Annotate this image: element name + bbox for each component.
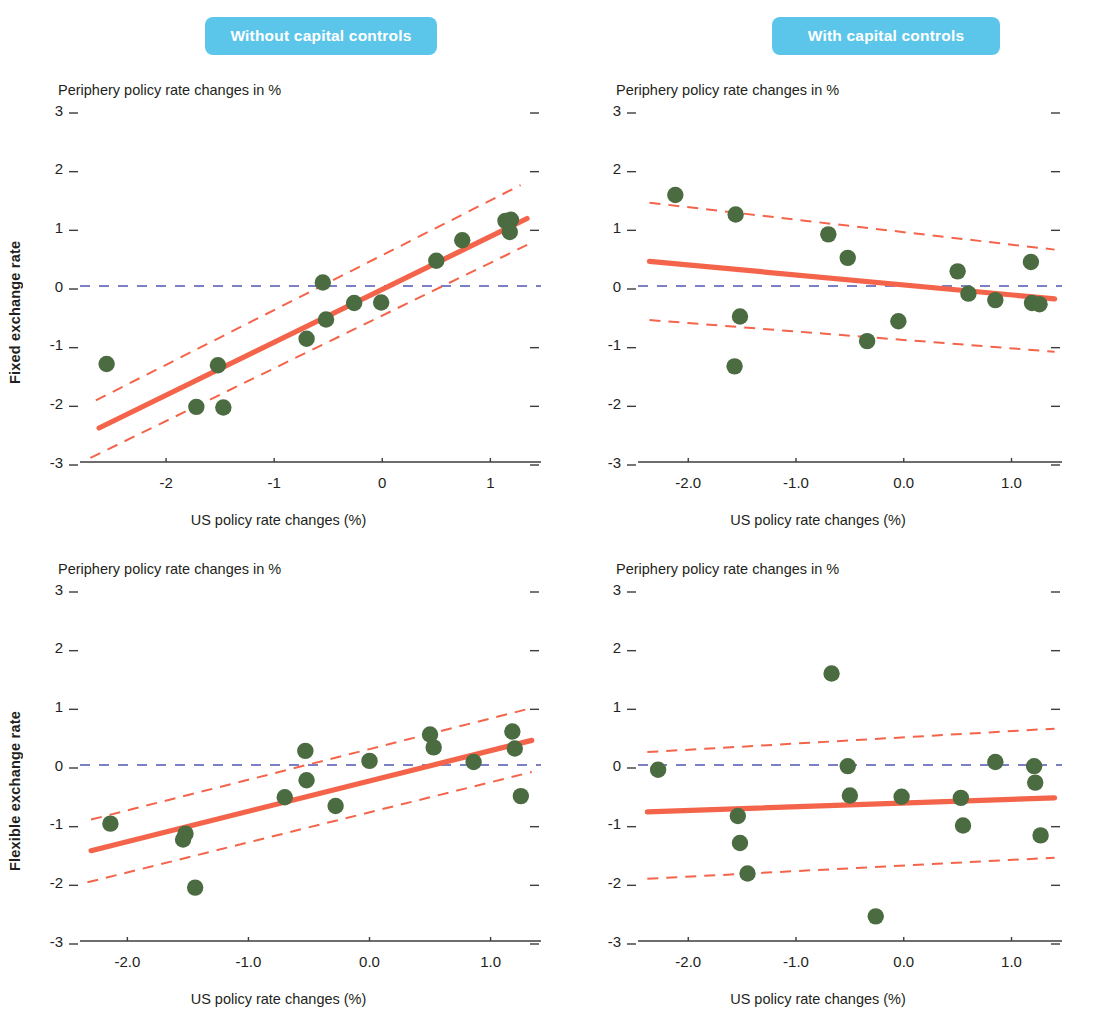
scatter-point [277, 789, 293, 805]
scatter-point [732, 308, 748, 324]
x-tick-label: 1.0 [480, 953, 501, 970]
badge-with-capital-controls: With capital controls [772, 17, 1000, 55]
scatter-plot-svg: -3-2-10123-2-101 [0, 72, 557, 502]
x-tick-label: -1.0 [783, 953, 809, 970]
scatter-point [955, 817, 971, 833]
x-axis-title: US policy rate changes (%) [0, 512, 557, 528]
scatter-point [298, 331, 314, 347]
scatter-point [1023, 254, 1039, 270]
scatter-plot-svg: -3-2-10123-2.0-1.00.01.0 [0, 551, 557, 981]
scatter-point [1026, 758, 1042, 774]
y-tick-label: 0 [613, 757, 621, 774]
scatter-point [732, 835, 748, 851]
y-tick-label: 3 [613, 102, 621, 119]
scatter-point [210, 357, 226, 373]
scatter-point [513, 788, 529, 804]
y-tick-label: 0 [613, 278, 621, 295]
x-tick-label: 0.0 [893, 953, 914, 970]
y-tick-label: 0 [55, 278, 63, 295]
confidence-interval-line [90, 245, 527, 458]
y-tick-label: -1 [50, 336, 63, 353]
confidence-interval-line [649, 203, 1054, 250]
x-tick-label: 1.0 [1001, 953, 1022, 970]
scatter-point [465, 754, 481, 770]
scatter-point [361, 753, 377, 769]
x-tick-label: -2.0 [114, 953, 140, 970]
scatter-point [1032, 827, 1048, 843]
scatter-point [327, 798, 343, 814]
x-tick-label: 0.0 [359, 953, 380, 970]
x-tick-label: 1 [486, 474, 494, 491]
scatter-point [1027, 774, 1043, 790]
scatter-point [859, 333, 875, 349]
y-tick-label: 3 [55, 102, 63, 119]
x-tick-label: 0 [378, 474, 386, 491]
scatter-point [960, 285, 976, 301]
scatter-point [102, 815, 118, 831]
x-tick-label: 1.0 [1001, 474, 1022, 491]
scatter-point [98, 356, 114, 372]
y-tick-label: -1 [608, 815, 621, 832]
y-tick-label: 2 [613, 160, 621, 177]
scatter-point [667, 187, 683, 203]
plot-area: -3-2-10123-2.0-1.00.01.0 [0, 551, 557, 1030]
scatter-point [949, 263, 965, 279]
scatter-point [727, 206, 743, 222]
regression-fit-line [99, 219, 527, 428]
x-axis-title: US policy rate changes (%) [0, 991, 557, 1007]
scatter-point [650, 761, 666, 777]
y-tick-label: 1 [55, 219, 63, 236]
y-tick-label: -1 [608, 336, 621, 353]
scatter-point [187, 879, 203, 895]
x-tick-label: -2 [159, 474, 172, 491]
confidence-interval-line [87, 772, 531, 882]
y-tick-label: -3 [608, 933, 621, 950]
scatter-point [373, 294, 389, 310]
scatter-point [175, 831, 191, 847]
plot-area: -3-2-10123-2.0-1.00.01.0 [558, 72, 1115, 551]
y-tick-label: -3 [50, 454, 63, 471]
scatter-point [346, 295, 362, 311]
y-tick-label: 1 [613, 698, 621, 715]
y-tick-label: -3 [50, 933, 63, 950]
y-tick-label: 1 [55, 698, 63, 715]
y-tick-label: 2 [55, 160, 63, 177]
scatter-point [890, 313, 906, 329]
scatter-point [297, 743, 313, 759]
x-tick-label: -2.0 [675, 474, 701, 491]
scatter-point [840, 758, 856, 774]
x-tick-label: -1.0 [783, 474, 809, 491]
scatter-point [504, 723, 520, 739]
y-tick-label: 2 [613, 639, 621, 656]
y-tick-label: -2 [50, 874, 63, 891]
x-tick-label: -1 [267, 474, 280, 491]
panel-flexible-with: Periphery policy rate changes in % -3-2-… [558, 551, 1115, 1030]
y-tick-label: -3 [608, 454, 621, 471]
scatter-point [318, 311, 334, 327]
y-tick-label: 0 [55, 757, 63, 774]
x-tick-label: -1.0 [236, 953, 262, 970]
badge-without-capital-controls: Without capital controls [205, 17, 437, 55]
x-axis-title: US policy rate changes (%) [558, 512, 1078, 528]
y-tick-label: -2 [50, 395, 63, 412]
y-tick-label: 3 [613, 581, 621, 598]
scatter-point [840, 250, 856, 266]
scatter-plot-svg: -3-2-10123-2.0-1.00.01.0 [558, 72, 1078, 502]
panel-fixed-with: Periphery policy rate changes in % -3-2-… [558, 72, 1115, 551]
scatter-point [820, 226, 836, 242]
scatter-point [987, 292, 1003, 308]
scatter-point [425, 739, 441, 755]
scatter-point [315, 274, 331, 290]
scatter-point [726, 358, 742, 374]
y-tick-label: -1 [50, 815, 63, 832]
confidence-interval-line [647, 858, 1054, 879]
panel-fixed-without: Fixed exchange rate Periphery policy rat… [0, 72, 557, 551]
scatter-point [823, 665, 839, 681]
scatter-plot-svg: -3-2-10123-2.0-1.00.01.0 [558, 551, 1078, 981]
scatter-point [502, 224, 518, 240]
scatter-point [739, 865, 755, 881]
scatter-point [893, 788, 909, 804]
plot-area: -3-2-10123-2-101 [0, 72, 557, 551]
x-tick-label: 0.0 [893, 474, 914, 491]
confidence-interval-line [647, 729, 1054, 752]
